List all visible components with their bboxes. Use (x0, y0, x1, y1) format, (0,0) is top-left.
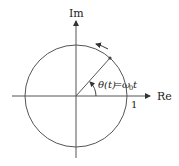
phasor-tip-point (108, 56, 111, 59)
angle-arc-icon (90, 82, 96, 96)
unit-tick-label: 1 (131, 99, 137, 110)
y-axis-label: Im (69, 7, 84, 20)
unit-circle-diagram: Im Re 1 θ(t) = ω 0 t (0, 0, 179, 166)
phasor-vector (76, 58, 110, 96)
x-axis-label: Re (157, 90, 172, 103)
angle-label: θ(t) = ω 0 t (98, 79, 138, 92)
svg-text:t: t (133, 79, 138, 90)
rotation-arrow-icon (96, 44, 108, 49)
